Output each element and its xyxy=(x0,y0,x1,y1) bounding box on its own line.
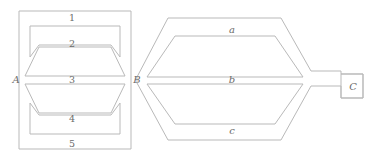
region-label-4: 4 xyxy=(69,113,75,124)
region-label-1: 1 xyxy=(69,12,75,23)
region-label-c: c xyxy=(229,125,235,136)
region-3-shape xyxy=(25,84,125,113)
region-b-c-divider xyxy=(147,84,303,124)
node-label-C: C xyxy=(349,81,357,92)
region-a-shape xyxy=(147,36,303,77)
region-label-b: b xyxy=(229,74,235,85)
region-label-a: a xyxy=(229,24,235,35)
region-label-3: 3 xyxy=(69,74,75,85)
node-label-B: B xyxy=(132,74,140,85)
node-label-A: A xyxy=(11,74,19,85)
region-label-2: 2 xyxy=(69,38,75,49)
region-label-5: 5 xyxy=(69,138,75,149)
network-region-diagram: A B C 1 2 3 4 5 a b c xyxy=(0,0,367,158)
region-2-shape xyxy=(25,47,125,76)
